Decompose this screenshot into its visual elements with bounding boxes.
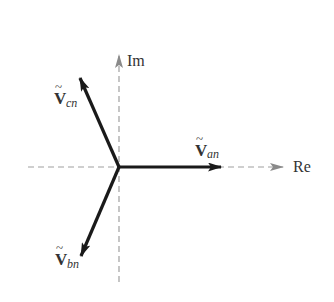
imag-axis-label: Im (127, 52, 145, 69)
label-vcn-subscript: cn (66, 96, 77, 110)
label-van-tilde: ~ (196, 131, 203, 146)
label-vcn-tilde: ~ (55, 79, 62, 94)
real-axis-label: Re (293, 158, 311, 175)
label-vbn-tilde: ~ (56, 240, 63, 255)
phasor-vbn (81, 167, 119, 256)
phasor-vcn (80, 78, 119, 167)
phasor-diagram: Re Im V ~ an V ~ cn V ~ bn (0, 0, 334, 302)
label-van: V ~ an (195, 131, 219, 161)
label-vcn: V ~ cn (54, 79, 77, 110)
label-van-subscript: an (207, 147, 219, 161)
label-vbn: V ~ bn (55, 240, 79, 271)
label-vbn-subscript: bn (67, 257, 79, 271)
